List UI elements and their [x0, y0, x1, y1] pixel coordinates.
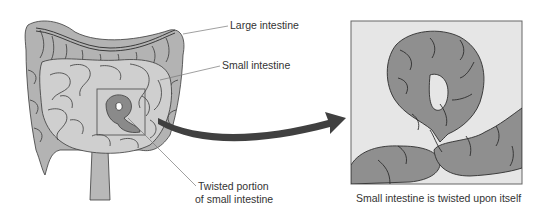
arrow [158, 112, 346, 141]
small-intestine-illustration [40, 59, 172, 153]
label-twisted-portion-line1: Twisted portion [198, 180, 269, 192]
zoom-panel [351, 21, 522, 184]
label-large-intestine: Large intestine [230, 19, 299, 31]
label-twisted-portion-line2: of small intestine [195, 193, 273, 205]
leader-large-intestine [183, 26, 228, 34]
intestine-diagram [0, 0, 549, 218]
panel-caption: Small intestine is twisted upon itself [356, 192, 521, 204]
label-small-intestine: Small intestine [222, 59, 290, 71]
